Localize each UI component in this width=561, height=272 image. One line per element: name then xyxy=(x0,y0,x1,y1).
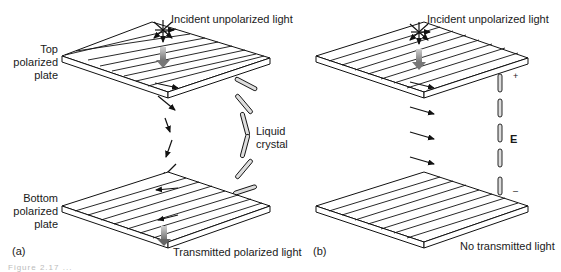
polarization-arrows-a xyxy=(158,96,176,178)
liquid-crystal-molecules-a xyxy=(233,77,258,196)
panel-b-label: (b) xyxy=(313,245,326,257)
panel-a-label: (a) xyxy=(12,245,25,257)
liquid-crystal-label: Liquid crystal xyxy=(256,125,288,151)
no-transmitted-light-label: No transmitted light xyxy=(460,240,555,252)
positive-electrode-label: + xyxy=(513,70,518,82)
incident-light-label-b: Incident unpolarized light xyxy=(427,13,549,25)
figure-caption: Figure 2.17 ... xyxy=(8,263,72,272)
liquid-crystal-molecules-aligned-b xyxy=(498,74,502,195)
light-beam-arrow-b xyxy=(416,49,422,63)
top-plate-label-a: Top polarized plate xyxy=(10,43,58,82)
bottom-polarized-plate-b xyxy=(316,172,528,248)
electric-field-label: E xyxy=(510,133,517,145)
incident-light-label-a: Incident unpolarized light xyxy=(171,13,293,25)
transmitted-beam-arrow-a xyxy=(161,226,167,240)
bottom-plate-label-a: Bottom polarized plate xyxy=(4,192,58,231)
negative-electrode-label: – xyxy=(513,185,518,197)
light-beam-arrow-a xyxy=(160,47,166,61)
transmitted-light-label-a: Transmitted polarized light xyxy=(173,246,302,258)
